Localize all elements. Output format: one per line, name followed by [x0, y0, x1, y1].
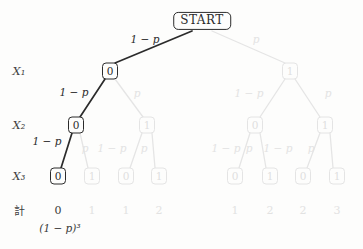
leftmost-path-probability: (1 − p)³ [39, 222, 80, 234]
tree-node-x2-2: 0 [247, 117, 263, 134]
edge-label-1mp: 1 − p [212, 143, 241, 154]
tree-node-x3-5: 1 [262, 168, 278, 185]
tree-node-x3-6: 0 [295, 168, 311, 185]
edge-x1a-left [80, 79, 105, 117]
edge-label-1mp: 1 − p [235, 88, 264, 99]
total-value-6: 2 [300, 205, 307, 216]
total-value-1: 1 [89, 205, 96, 216]
start-node: START [173, 12, 231, 30]
row-label-x2: X₂ [13, 118, 26, 132]
edge-label-1mp: 1 − p [264, 143, 293, 154]
edge-label-p: p [308, 143, 315, 154]
edge-x1b-left [260, 79, 285, 117]
edge-label-1mp: 1 − p [98, 143, 127, 154]
total-value-0: 0 [55, 205, 62, 216]
row-label-x3: X₃ [13, 169, 26, 183]
tree-node-x1-1: 1 [282, 63, 298, 80]
tree-node-x3-1: 1 [84, 168, 100, 185]
edge-x2d-right [330, 133, 333, 168]
total-value-3: 2 [156, 205, 163, 216]
tree-node-x3-4: 0 [227, 168, 243, 185]
edge-label-p: p [134, 88, 141, 99]
edge-x2a-left [61, 133, 72, 168]
edge-label-1mp: 1 − p [60, 87, 89, 98]
row-label-total: 計 [14, 202, 25, 218]
edge-label-1mp: 1 − p [131, 34, 160, 45]
tree-node-x2-3: 1 [317, 117, 333, 134]
binary-tree-diagram: START X₁ X₂ X₃ 計 1 − p p 1 − p p 1 − p p… [0, 0, 363, 249]
edge-x1b-right [295, 79, 320, 117]
edge-x2b-right [152, 133, 155, 168]
total-value-5: 2 [267, 205, 274, 216]
edge-label-p: p [141, 143, 148, 154]
edge-label-p: p [246, 143, 253, 154]
tree-node-x3-7: 1 [329, 168, 345, 185]
tree-node-x2-0: 0 [68, 117, 84, 134]
edge-label-1mp: 1 − p [33, 136, 62, 147]
total-value-7: 3 [334, 205, 341, 216]
row-label-x1: X₁ [13, 64, 26, 78]
tree-node-x3-3: 1 [151, 168, 167, 185]
tree-node-x3-2: 0 [118, 168, 134, 185]
tree-node-x3-0: 0 [50, 168, 66, 185]
edge-label-p: p [253, 34, 260, 45]
edge-label-p: p [325, 88, 332, 99]
edge-start-right [212, 31, 285, 63]
total-value-2: 1 [123, 205, 130, 216]
tree-node-x1-0: 0 [102, 63, 118, 80]
edge-label-p: p [82, 143, 89, 154]
tree-node-x2-1: 1 [139, 117, 155, 134]
total-value-4: 1 [232, 205, 239, 216]
